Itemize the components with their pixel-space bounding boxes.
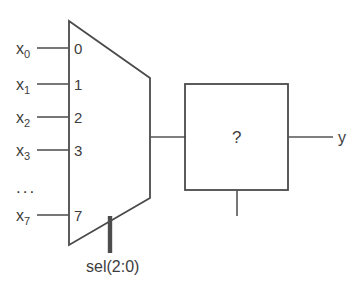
input-label-0: x0 — [16, 40, 30, 60]
mux-diagram: x0 x1 x2 x3 ... x7 0 1 2 3 7 sel(2:0) ? … — [0, 0, 360, 298]
port-number-0: 0 — [74, 40, 82, 57]
input-label-7: x7 — [16, 207, 30, 227]
unknown-block-label: ? — [232, 128, 241, 147]
port-number-1: 1 — [74, 76, 82, 93]
select-label: sel(2:0) — [86, 258, 139, 275]
port-number-2: 2 — [74, 109, 82, 126]
port-number-7: 7 — [74, 207, 82, 224]
schematic-canvas: x0 x1 x2 x3 ... x7 0 1 2 3 7 sel(2:0) ? … — [0, 0, 360, 298]
output-label: y — [338, 129, 346, 146]
input-label-3: x3 — [16, 142, 30, 162]
inputs-ellipsis: ... — [16, 178, 36, 197]
input-label-2: x2 — [16, 109, 30, 129]
port-number-3: 3 — [74, 142, 82, 159]
input-label-1: x1 — [16, 76, 30, 96]
